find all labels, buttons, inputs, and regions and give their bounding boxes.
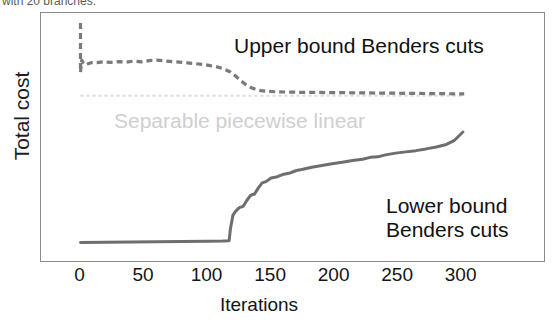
plot-area: Upper bound Benders cuts Separable piece… [40, 12, 545, 262]
y-axis-label: Total cost [10, 36, 34, 196]
x-axis-label-text: Iterations [220, 294, 298, 316]
x-tick-label-100: 100 [191, 264, 223, 286]
cut-off-caption: with 20 branches. [0, 0, 556, 9]
x-tick-label-250: 250 [381, 264, 413, 286]
annotation-lower-bound: Lower bound Benders cuts [386, 194, 509, 242]
annotation-separable-piecewise-linear: Separable piecewise linear [114, 109, 365, 133]
figure-container: with 20 branches. Total cost Upper bound… [0, 0, 556, 328]
x-axis-label: Iterations [0, 294, 556, 316]
x-tick-label-0: 0 [74, 264, 85, 286]
annotation-lower-bound-line1: Lower bound [386, 194, 509, 218]
caption-text: with 20 branches. [2, 0, 96, 8]
x-tick-label-50: 50 [132, 264, 153, 286]
annotation-upper-bound: Upper bound Benders cuts [234, 34, 484, 58]
annotation-lower-bound-line2: Benders cuts [386, 218, 509, 242]
x-tick-label-300: 300 [445, 264, 477, 286]
x-axis-tick-labels: 050100150200250300 [0, 264, 556, 290]
x-tick-label-200: 200 [318, 264, 350, 286]
x-tick-label-150: 150 [254, 264, 286, 286]
